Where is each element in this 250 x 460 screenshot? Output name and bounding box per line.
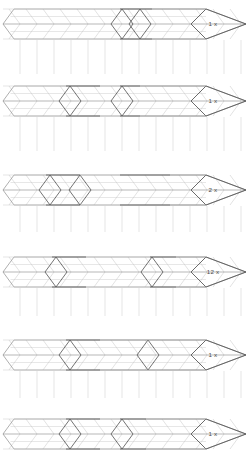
labels-layer: 1 x1 x2 x12 x1 x1 x [207,20,220,437]
grid-lines-1 [20,40,241,74]
quantity-label-2: 1 x [209,97,219,104]
quantity-label-4: 12 x [207,268,220,275]
rows-layer [3,9,246,449]
grid-lines-2 [20,117,241,151]
diagram-canvas: 1 x1 x2 x12 x1 x1 x [0,0,250,460]
chevron-band-5[interactable] [3,340,246,398]
grid-lines-5 [20,371,241,398]
quantity-label-5: 1 x [209,351,219,358]
grid-lines-3 [20,206,241,232]
quantity-label-6: 1 x [209,430,219,437]
chevron-band-3[interactable] [3,175,246,232]
chevron-band-diagram: 1 x1 x2 x12 x1 x1 x [0,0,250,460]
chevron-band-1[interactable] [3,9,246,74]
chevron-band-2[interactable] [3,86,246,151]
quantity-label-3: 2 x [209,186,219,193]
grid-lines-4 [20,288,241,316]
chevron-band-4[interactable] [3,257,246,316]
quantity-label-1: 1 x [209,20,219,27]
